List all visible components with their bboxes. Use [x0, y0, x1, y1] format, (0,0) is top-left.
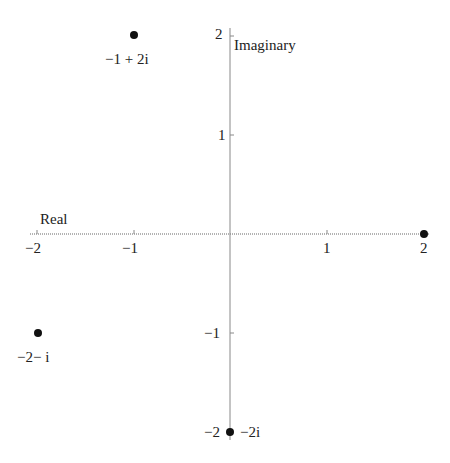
- y-tick-label: −2: [204, 425, 220, 440]
- y-tick-label: 2: [215, 27, 223, 42]
- x-tick-label: −2: [25, 241, 41, 256]
- point-neg1-plus-2i: [130, 31, 138, 39]
- point-label: −2i: [240, 425, 260, 440]
- y-tick-label: 1: [218, 128, 226, 143]
- point-neg2-minus-i: [34, 329, 42, 337]
- point-2: [420, 230, 428, 238]
- x-tick-label: 1: [323, 241, 331, 256]
- imaginary-axis-label: Imaginary: [234, 38, 296, 53]
- point-label: −1 + 2i: [105, 52, 149, 67]
- point-label: −2− i: [17, 350, 49, 365]
- complex-plane-plot: [0, 0, 450, 463]
- x-tick-label: −1: [122, 241, 138, 256]
- point-neg2i: [226, 428, 234, 436]
- real-axis-label: Real: [40, 212, 68, 227]
- y-tick-label: −1: [204, 326, 220, 341]
- x-tick-label: 2: [420, 241, 428, 256]
